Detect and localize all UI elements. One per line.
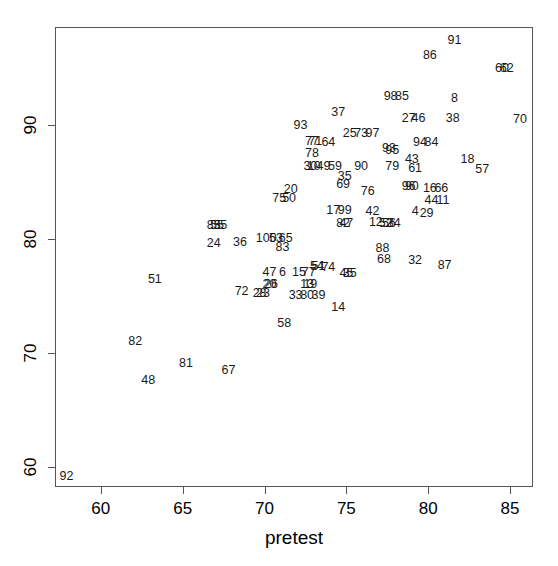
- x-tick-mark: [346, 487, 347, 494]
- data-point-label: 79: [385, 160, 399, 173]
- data-point-label: 69: [336, 178, 350, 191]
- data-point-label: 67: [222, 363, 236, 376]
- data-point-label: 46: [411, 112, 425, 125]
- data-point-label: 11: [436, 194, 449, 207]
- data-point-label: 97: [366, 127, 380, 140]
- data-point-label: 39: [312, 288, 326, 301]
- data-point-label: 64: [321, 136, 335, 149]
- data-point-label: 47: [339, 217, 353, 230]
- data-point-label: 72: [235, 285, 249, 298]
- data-point-label: 62: [500, 62, 514, 75]
- x-tick-mark: [101, 487, 102, 494]
- data-point-label: 18: [461, 153, 475, 166]
- data-point-label: 95: [385, 144, 399, 157]
- data-point-label: 74: [321, 261, 335, 274]
- data-point-label: 85: [395, 90, 409, 103]
- data-point-label: 70: [513, 113, 527, 126]
- x-tick-mark: [428, 487, 429, 494]
- data-point-label: 76: [361, 185, 375, 198]
- data-point-label: 82: [128, 335, 142, 348]
- data-point-label: 48: [141, 374, 155, 387]
- data-point-label: 84: [425, 136, 439, 149]
- data-point-label: 91: [447, 33, 461, 46]
- y-tick-label: 60: [21, 457, 41, 476]
- data-point-label: 93: [294, 119, 308, 132]
- data-point-label: 35: [213, 219, 227, 232]
- plot-area-box: [55, 27, 533, 487]
- data-point-label: 68: [377, 253, 391, 266]
- data-point-label: 90: [405, 180, 419, 193]
- x-tick-label: 85: [501, 499, 520, 519]
- data-point-label: 23: [256, 287, 270, 300]
- data-point-label: 57: [475, 163, 489, 176]
- data-point-label: 24: [207, 237, 221, 250]
- y-tick-mark: [48, 239, 55, 240]
- scatter-plot-figure: 60657075808560708090 9186606298858274638…: [0, 0, 558, 566]
- x-tick-label: 60: [91, 499, 110, 519]
- y-tick-mark: [48, 467, 55, 468]
- data-point-label: 6: [279, 266, 286, 279]
- data-point-label: 50: [282, 192, 296, 205]
- data-point-label: 32: [408, 254, 422, 267]
- data-point-label: 36: [233, 236, 247, 249]
- y-tick-label: 70: [21, 343, 41, 362]
- data-point-label: 51: [148, 272, 162, 285]
- y-tick-label: 90: [21, 115, 41, 134]
- data-point-label: 4: [412, 205, 419, 218]
- data-point-label: 83: [276, 241, 290, 254]
- x-axis-title: pretest: [265, 527, 323, 549]
- data-point-label: 38: [446, 112, 460, 125]
- data-point-label: 14: [331, 301, 345, 314]
- data-point-label: 34: [387, 217, 401, 230]
- data-point-label: 58: [277, 317, 291, 330]
- data-point-label: 8: [451, 91, 458, 104]
- data-point-label: 37: [331, 106, 345, 119]
- x-tick-mark: [265, 487, 266, 494]
- data-point-label: 92: [60, 469, 74, 482]
- data-point-label: 90: [354, 160, 368, 173]
- data-point-label: 81: [179, 357, 193, 370]
- x-tick-label: 65: [173, 499, 192, 519]
- x-tick-label: 80: [419, 499, 438, 519]
- data-point-label: 61: [408, 162, 422, 175]
- data-point-label: 29: [420, 206, 434, 219]
- x-tick-label: 70: [255, 499, 274, 519]
- x-tick-mark: [183, 487, 184, 494]
- y-tick-mark: [48, 125, 55, 126]
- x-tick-mark: [510, 487, 511, 494]
- x-tick-label: 75: [337, 499, 356, 519]
- data-point-label: 87: [438, 259, 452, 272]
- data-point-label: 35: [343, 267, 357, 280]
- y-tick-label: 80: [21, 229, 41, 248]
- data-point-label: 86: [423, 49, 437, 62]
- y-tick-mark: [48, 353, 55, 354]
